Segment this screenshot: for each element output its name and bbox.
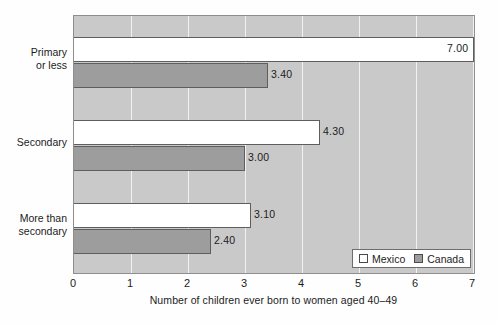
category-label-primary: Primary or less	[0, 46, 67, 71]
bar-value-canada-primary: 3.40	[271, 68, 292, 80]
plot-area: Mexico Canada	[73, 15, 475, 274]
category-label-primary-line1: Primary	[0, 46, 67, 59]
x-tick-1: 1	[127, 277, 133, 289]
bar-mexico-morethan	[74, 203, 251, 228]
chart-legend: Mexico Canada	[352, 249, 471, 268]
bar-value-mexico-secondary: 4.30	[323, 125, 344, 137]
x-tick-4: 4	[298, 277, 304, 289]
white-square-icon	[359, 254, 368, 263]
x-axis-line	[73, 273, 474, 274]
bar-chart: Mexico Canada 7.00 3.40 4.30 3.00 3.10 2…	[0, 0, 498, 326]
bar-value-mexico-morethan: 3.10	[254, 208, 275, 220]
category-label-morethan-line2: secondary	[0, 225, 67, 238]
x-tick-0: 0	[70, 277, 76, 289]
legend-label-canada: Canada	[427, 253, 464, 265]
legend-item-canada: Canada	[414, 253, 464, 265]
bar-value-canada-secondary: 3.00	[248, 151, 269, 163]
legend-item-mexico: Mexico	[359, 253, 405, 265]
x-tick-2: 2	[184, 277, 190, 289]
bar-value-mexico-primary: 7.00	[447, 42, 468, 54]
category-label-secondary: Secondary	[0, 136, 67, 149]
category-label-morethan-line1: More than	[0, 212, 67, 225]
gray-square-icon	[414, 254, 423, 263]
bar-canada-morethan	[74, 229, 211, 254]
bar-mexico-secondary	[74, 120, 320, 145]
bar-value-canada-morethan: 2.40	[214, 234, 235, 246]
bar-canada-secondary	[74, 146, 245, 171]
x-tick-7: 7	[469, 277, 475, 289]
x-tick-6: 6	[412, 277, 418, 289]
bar-mexico-primary	[74, 37, 474, 62]
legend-label-mexico: Mexico	[372, 253, 405, 265]
x-tick-3: 3	[241, 277, 247, 289]
category-label-secondary-line1: Secondary	[0, 136, 67, 149]
x-tick-5: 5	[355, 277, 361, 289]
bar-canada-primary	[74, 63, 268, 88]
category-label-primary-line2: or less	[0, 59, 67, 72]
x-axis-title: Number of children ever born to women ag…	[73, 294, 474, 306]
category-label-morethan: More than secondary	[0, 212, 67, 237]
